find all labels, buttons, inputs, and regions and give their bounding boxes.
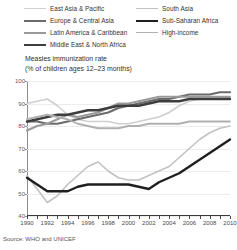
y-tick-label: 100 bbox=[11, 78, 25, 84]
legend-swatch-icon bbox=[136, 20, 158, 22]
chart-title-block: Measles immunization rate (% of children… bbox=[25, 54, 225, 73]
legend-item-label: Sub-Saharan Africa bbox=[162, 17, 218, 24]
legend-item-label: East Asia & Pacific bbox=[50, 5, 104, 12]
legend-swatch-icon bbox=[24, 8, 46, 9]
legend-item: East Asia & Pacific bbox=[24, 5, 104, 12]
x-tick-mark bbox=[230, 216, 231, 219]
x-tick-mark bbox=[57, 216, 58, 219]
legend-item: Middle East & North Africa bbox=[24, 41, 126, 48]
legend-swatch-icon bbox=[24, 32, 46, 34]
x-tick-mark bbox=[179, 216, 180, 219]
y-tick-label: 90 bbox=[11, 101, 25, 107]
x-tick-mark bbox=[27, 216, 28, 219]
x-tick-mark bbox=[129, 216, 130, 219]
chart-area: 405060708090100 199019921994199619982000… bbox=[0, 74, 237, 229]
y-tick-mark bbox=[25, 149, 27, 150]
legend-item-label: Latin America & Caribbean bbox=[50, 29, 127, 36]
chart-title-line-2: (% of children ages 12–23 months) bbox=[25, 64, 225, 74]
y-tick-label: 70 bbox=[11, 146, 25, 152]
x-tick-label: 2000 bbox=[122, 220, 135, 227]
x-tick-label: 1998 bbox=[102, 220, 115, 227]
x-tick-mark bbox=[210, 216, 211, 219]
x-tick-mark bbox=[189, 216, 190, 219]
y-tick-mark bbox=[25, 171, 27, 172]
x-tick-label: 2006 bbox=[183, 220, 196, 227]
x-tick-mark bbox=[78, 216, 79, 219]
legend-swatch-icon bbox=[136, 8, 158, 9]
x-tick-mark bbox=[108, 216, 109, 219]
legend-item-label: High-income bbox=[162, 29, 198, 36]
x-tick-mark bbox=[149, 216, 150, 219]
legend-item: Europe & Central Asia bbox=[24, 17, 114, 24]
x-tick-mark bbox=[37, 216, 38, 219]
x-tick-mark bbox=[159, 216, 160, 219]
legend-item: South Asia bbox=[136, 5, 193, 12]
legend-item-label: Europe & Central Asia bbox=[50, 17, 114, 24]
x-tick-mark bbox=[47, 216, 48, 219]
y-tick-mark bbox=[25, 194, 27, 195]
series-line bbox=[27, 140, 230, 192]
legend-item: Sub-Saharan Africa bbox=[136, 17, 218, 24]
x-tick-label: 2002 bbox=[142, 220, 155, 227]
x-tick-label: 2008 bbox=[203, 220, 216, 227]
y-tick-mark bbox=[25, 81, 27, 82]
x-tick-mark bbox=[169, 216, 170, 219]
y-tick-mark bbox=[25, 126, 27, 127]
chart-title-line-1: Measles immunization rate bbox=[25, 54, 225, 64]
legend-item-label: South Asia bbox=[162, 5, 193, 12]
legend-swatch-icon bbox=[136, 32, 158, 33]
x-tick-mark bbox=[68, 216, 69, 219]
x-tick-label: 1990 bbox=[20, 220, 33, 227]
y-tick-label: 40 bbox=[11, 213, 25, 219]
x-tick-mark bbox=[200, 216, 201, 219]
x-tick-mark bbox=[88, 216, 89, 219]
plot-area bbox=[27, 81, 230, 216]
x-tick-mark bbox=[139, 216, 140, 219]
x-tick-label: 2010 bbox=[223, 220, 236, 227]
series-line bbox=[27, 115, 230, 129]
x-tick-label: 1992 bbox=[41, 220, 54, 227]
x-tick-label: 2004 bbox=[162, 220, 175, 227]
x-tick-label: 1996 bbox=[81, 220, 94, 227]
source-note: Source: WHO and UNICEF bbox=[3, 236, 76, 243]
chart-page: East Asia & PacificEurope & Central Asia… bbox=[0, 0, 237, 250]
y-tick-label: 80 bbox=[11, 123, 25, 129]
x-tick-label: 1994 bbox=[61, 220, 74, 227]
legend-swatch-icon bbox=[24, 44, 46, 46]
y-tick-label: 60 bbox=[11, 168, 25, 174]
series-line bbox=[27, 99, 230, 122]
x-tick-mark bbox=[220, 216, 221, 219]
legend-item: Latin America & Caribbean bbox=[24, 29, 127, 36]
legend-item: High-income bbox=[136, 29, 198, 36]
legend-swatch-icon bbox=[24, 20, 46, 22]
series-lines bbox=[27, 81, 230, 216]
chart-legend: East Asia & PacificEurope & Central Asia… bbox=[0, 2, 237, 52]
x-tick-mark bbox=[118, 216, 119, 219]
y-tick-label: 50 bbox=[11, 191, 25, 197]
y-tick-mark bbox=[25, 104, 27, 105]
legend-item-label: Middle East & North Africa bbox=[50, 41, 126, 48]
x-tick-mark bbox=[98, 216, 99, 219]
